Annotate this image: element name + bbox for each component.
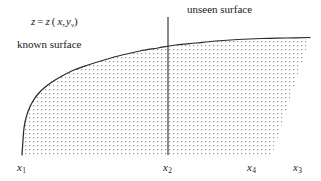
axis-label-x2: x2 xyxy=(163,162,172,175)
unseen-surface-label: unseen surface xyxy=(187,4,252,15)
axis-label-x1-sub: 1 xyxy=(22,166,26,175)
axis-label-x2-sub: 2 xyxy=(168,166,172,175)
axis-label-x1: x1 xyxy=(17,162,26,175)
figure-container: z=z(x, yv) known surface unseen surface … xyxy=(0,0,321,181)
known-surface-label: known surface xyxy=(17,39,81,50)
surface-equation: z=z(x, yv) xyxy=(31,16,78,29)
axis-label-x3: x3 xyxy=(293,162,302,175)
axis-label-x4-sub: 4 xyxy=(252,166,256,175)
equation-comma: , xyxy=(62,15,65,27)
axis-label-x3-sub: 3 xyxy=(298,166,302,175)
axis-label-x4: x4 xyxy=(247,162,256,175)
equation-close-paren: ) xyxy=(74,15,78,27)
equation-equals: = xyxy=(35,15,45,27)
